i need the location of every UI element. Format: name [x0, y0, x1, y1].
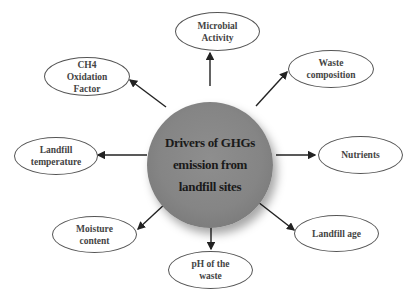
node-landfill-temperature: Landfill temperature — [14, 137, 98, 175]
central-hub-circle: Drivers of GHGs emission from landfill s… — [147, 102, 273, 228]
arrow-to-landfill-age — [258, 202, 294, 230]
node-label: pH of the waste — [192, 258, 230, 282]
node-label: Landfill age — [312, 228, 361, 240]
node-label: Waste composition — [306, 57, 355, 81]
node-nutrients: Nutrients — [318, 136, 403, 174]
node-waste-composition: Waste composition — [288, 50, 374, 88]
node-moisture-content: Moisture content — [52, 216, 137, 253]
node-label: Microbial Activity — [198, 20, 238, 44]
node-label: Moisture content — [76, 223, 113, 247]
node-landfill-age: Landfill age — [294, 215, 379, 252]
node-ph-of-the-waste: pH of the waste — [168, 251, 253, 289]
node-ch4-oxidation-factor: CH4 Oxidation Factor — [44, 57, 130, 96]
node-microbial-activity: Microbial Activity — [175, 12, 260, 51]
arrow-to-waste-composition — [256, 72, 287, 106]
node-label: Nutrients — [341, 149, 380, 161]
arrow-to-moisture-content — [138, 203, 166, 229]
node-label: Landfill temperature — [31, 144, 81, 168]
node-label: CH4 Oxidation Factor — [67, 59, 108, 95]
arrow-to-ch4-oxidation-factor — [130, 80, 166, 107]
central-hub-label: Drivers of GHGs emission from landfill s… — [165, 132, 255, 198]
